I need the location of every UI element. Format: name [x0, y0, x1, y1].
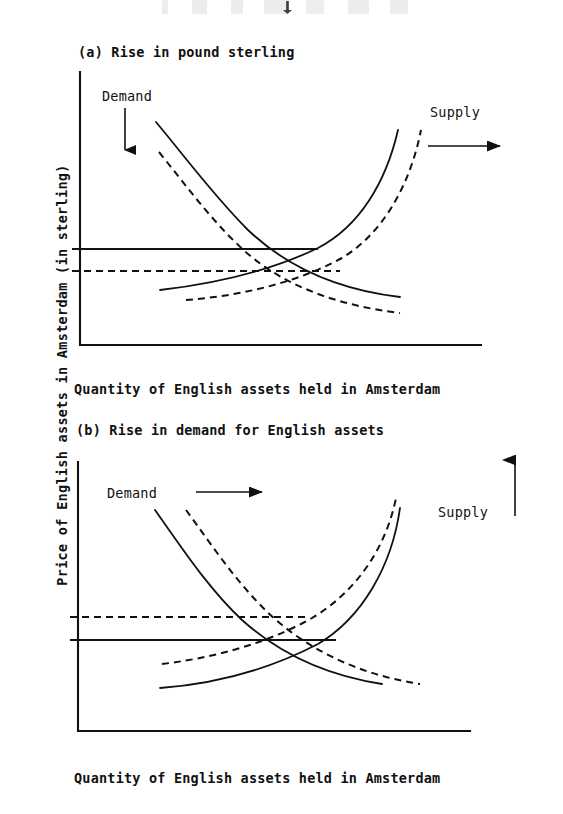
panel-b-demand-curve	[155, 510, 382, 684]
panel-b-x-caption: Quantity of English assets held in Amste…	[74, 770, 440, 786]
panel-b-supply-curve	[160, 508, 400, 688]
panel-b-axes	[78, 462, 470, 731]
panel-b-plot	[0, 0, 563, 814]
figure-page: Price of English assets in Amsterdam (in…	[0, 0, 563, 814]
